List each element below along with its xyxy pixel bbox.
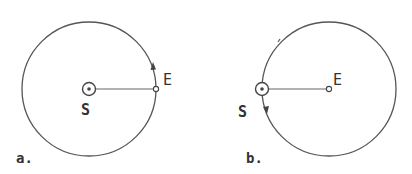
earth-a	[153, 86, 158, 91]
earth-b	[326, 86, 331, 91]
earth-label-b: E	[333, 71, 342, 89]
earth-label-a: E	[163, 71, 172, 89]
sun-earth-diagram: E S a. E S b.	[0, 0, 412, 174]
caption-a: a.	[16, 150, 33, 166]
sun-dot-b	[260, 87, 264, 91]
sun-label-b: S	[238, 103, 247, 121]
panel-a: E S a.	[16, 22, 172, 166]
sun-dot-a	[87, 87, 91, 91]
caption-b: b.	[246, 150, 263, 166]
sun-label-a: S	[81, 101, 90, 119]
panel-b: E S b.	[238, 22, 396, 166]
tick-mark-b	[278, 39, 280, 42]
